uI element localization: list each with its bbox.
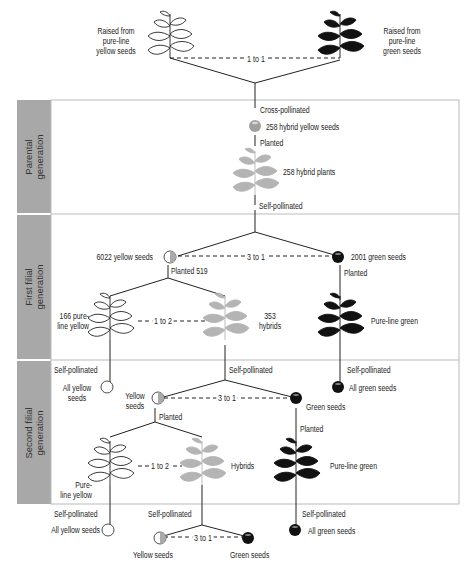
hybrid-plant-icon <box>233 148 279 195</box>
f2-planted-green-label: Planted <box>300 424 323 434</box>
parental-self-pollinated-label: Self-pollinated <box>259 201 303 211</box>
f1-green-seeds-label: 2001 green seeds <box>351 252 406 262</box>
f2-plant-ratio: 1 to 2 <box>149 461 170 471</box>
f2-self-pollinated-right-label: Self-pollinated <box>347 365 391 375</box>
f2-all-yellow-seed-icon <box>101 381 113 393</box>
f3-all-yellow-seeds-label: All yellow seeds <box>43 525 100 535</box>
f2-planted-yellow-label: Planted <box>159 412 182 422</box>
f2-pure-green-plant-icon <box>274 438 320 485</box>
f1-yellow-seeds-label: 6022 yellow seeds <box>93 252 153 262</box>
f3-seed-ratio: 3 to 1 <box>192 533 213 543</box>
f2-yellow-seed-icon <box>152 392 164 404</box>
f1-pure-yellow-label: 166 pure- line yellow <box>53 311 89 331</box>
f3-all-yellow-seed-icon <box>102 524 114 536</box>
f1-plant-ratio: 1 to 2 <box>152 316 173 326</box>
parental-planted-label: Planted <box>260 138 283 148</box>
green-parent-plant-icon <box>318 11 364 58</box>
f1-green-seed-icon <box>332 251 344 263</box>
f2-green-seeds-label: Green seeds <box>306 402 345 412</box>
yellow-parent-label: Raised from pure-line yellow seeds <box>91 26 140 56</box>
parent-ratio: 1 to 1 <box>245 54 266 64</box>
hybrid-plants-label: 258 hybrid plants <box>283 167 335 177</box>
f2-green-seed-icon <box>290 392 302 404</box>
f2-pure-yellow-label: Pure- line yellow <box>58 480 92 500</box>
f2-all-yellow-seeds-label: All yellow seeds <box>61 383 92 403</box>
f3-self-pollinated-right-label: Self-pollinated <box>302 509 346 519</box>
f3-yellow-seed-icon <box>154 532 166 544</box>
f2-all-green-seed-icon <box>332 381 344 393</box>
f3-yellow-seeds-label: Yellow seeds <box>133 550 173 560</box>
f3-self-pollinated-mid-label: Self-pollinated <box>148 509 192 519</box>
f3-all-green-seeds-label: All green seeds <box>308 526 355 536</box>
f2-seed-ratio: 3 to 1 <box>216 393 237 403</box>
cross-pollinated-label: Cross-pollinated <box>260 105 310 115</box>
f2-self-pollinated-left-label: Self-pollinated <box>54 365 98 375</box>
f2-pure-green-label: Pure-line green <box>330 461 377 471</box>
yellow-parent-plant-icon <box>148 11 194 58</box>
f1-hybrid-plant-icon <box>203 293 249 340</box>
f1-pure-green-plant-icon <box>318 293 364 340</box>
f3-self-pollinated-left-label: Self-pollinated <box>54 509 98 519</box>
f2-all-green-seeds-label: All green seeds <box>349 383 396 393</box>
f3-all-green-seed-icon <box>289 524 301 536</box>
f1-hybrids-label: 353 hybrids <box>258 311 283 331</box>
f1-planted-yellow-label: Planted 519 <box>171 266 208 276</box>
hybrid-seeds-label: 258 hybrid yellow seeds <box>266 122 339 132</box>
f2-hybrids-label: Hybrids <box>231 461 254 471</box>
f1-yellow-seed-icon <box>164 251 176 263</box>
f1-planted-green-label: Planted <box>344 268 367 278</box>
f2-pure-yellow-plant-icon <box>88 438 134 485</box>
f3-green-seeds-label: Green seeds <box>230 550 269 560</box>
mendel-diagram: Parental generation First filial generat… <box>0 0 476 571</box>
f1-seed-ratio: 3 to 1 <box>245 252 266 262</box>
f3-green-seed-icon <box>242 532 254 544</box>
f1-pure-yellow-plant-icon <box>88 293 134 340</box>
f2-yellow-seeds-label: Yellow seeds <box>123 391 148 411</box>
f1-pure-green-label: Pure-line green <box>371 316 418 326</box>
f2-self-pollinated-mid-label: Self-pollinated <box>229 365 273 375</box>
f2-hybrid-plant-icon <box>180 438 226 485</box>
green-parent-label: Raised from pure-line green seeds <box>377 26 426 56</box>
